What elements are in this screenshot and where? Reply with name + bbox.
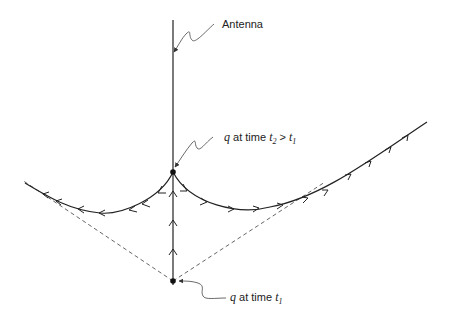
- antenna-charge-diagram: Antenna q at time t2 > t1 q at time t1: [0, 0, 449, 320]
- point-t2: [170, 169, 176, 175]
- antenna-leader: [174, 24, 214, 52]
- t2-label: q at time t2 > t1: [224, 130, 296, 146]
- point-t1: [170, 278, 176, 284]
- antenna-label: Antenna: [222, 18, 264, 30]
- t2-leader: [175, 137, 213, 167]
- left-curve-arrows: [43, 186, 166, 216]
- t1-leader: [179, 281, 226, 299]
- t1-label: q at time t1: [230, 290, 282, 306]
- trajectory-right: [173, 122, 427, 210]
